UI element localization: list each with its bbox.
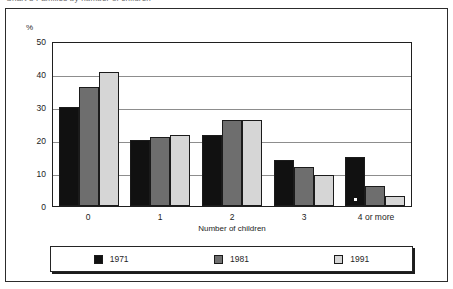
- x-axis-tick-label: 2: [192, 212, 272, 222]
- legend-item-1981[interactable]: 1981: [171, 254, 291, 264]
- x-axis-tick-label: 3: [264, 212, 344, 222]
- bar-group: [274, 43, 334, 206]
- x-axis-tick-label: 0: [48, 212, 128, 222]
- bar-1981-3[interactable]: [294, 167, 314, 206]
- y-axis-tick-label: 30: [12, 104, 46, 113]
- y-axis-tick-label: 10: [12, 170, 46, 179]
- bar-1991-0[interactable]: [99, 72, 119, 206]
- x-axis-tick-label: 4 or more: [336, 212, 416, 222]
- bar-1981-4-or-more[interactable]: [365, 186, 385, 206]
- y-axis-tick-label: 20: [12, 137, 46, 146]
- asterisk-marker-icon: [354, 198, 357, 201]
- bars-layer: [53, 43, 411, 206]
- y-axis-tick-label: 0: [12, 203, 46, 212]
- chart-plot-area: [52, 42, 412, 207]
- bar-group: [130, 43, 190, 206]
- legend-item-1971[interactable]: 1971: [51, 254, 171, 264]
- figure-caption-text: Chart 3 Families by number of children: [6, 0, 151, 3]
- bar-1971-3[interactable]: [274, 160, 294, 206]
- bar-1991-2[interactable]: [242, 120, 262, 206]
- bar-1971-0[interactable]: [59, 107, 79, 206]
- legend-label: 1981: [230, 254, 249, 264]
- y-axis-tick-label: 50: [12, 38, 46, 47]
- bar-group: [59, 43, 119, 206]
- bar-1981-0[interactable]: [79, 87, 99, 206]
- bar-1991-4-or-more[interactable]: [385, 196, 405, 206]
- legend-label: 1971: [110, 254, 129, 264]
- legend-label: 1991: [350, 254, 369, 264]
- bar-1971-4-or-more[interactable]: [345, 157, 365, 207]
- bar-1991-1[interactable]: [170, 135, 190, 206]
- bar-1981-2[interactable]: [222, 120, 242, 206]
- legend-item-1991[interactable]: 1991: [292, 254, 412, 264]
- x-axis-title: Number of children: [52, 224, 412, 233]
- y-axis-unit-label: %: [26, 23, 33, 32]
- y-axis-tick-label: 40: [12, 71, 46, 80]
- black-swatch: [94, 255, 103, 264]
- chart-legend: 197119811991: [50, 246, 413, 272]
- bar-group: [345, 43, 405, 206]
- bar-1981-1[interactable]: [150, 137, 170, 206]
- bar-1971-2[interactable]: [202, 135, 222, 206]
- bar-1971-1[interactable]: [130, 140, 150, 206]
- light-gray-swatch: [334, 255, 343, 264]
- chart-figure-frame: % 01020304050 01234 or more Number of ch…: [5, 8, 448, 282]
- bar-1991-3[interactable]: [314, 175, 334, 206]
- dark-gray-swatch: [214, 255, 223, 264]
- figure-caption-strip: Chart 3 Families by number of children: [0, 0, 453, 7]
- x-axis-tick-label: 1: [120, 212, 200, 222]
- bar-group: [202, 43, 262, 206]
